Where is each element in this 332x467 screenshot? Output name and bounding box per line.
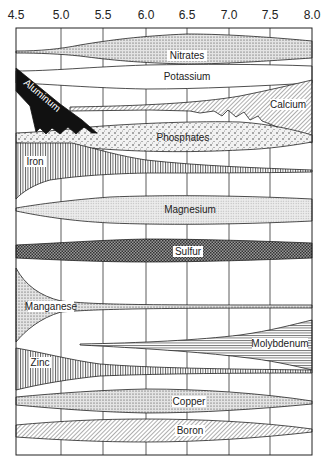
label-copper: Copper [173,396,206,407]
band-boron [16,419,312,442]
label-phosphates: Phosphates [157,132,210,143]
label-nitrates: Nitrates [170,50,204,61]
label-potassium: Potassium [164,71,211,82]
label-zinc: Zinc [31,357,50,368]
tick-8-0: 8.0 [304,8,321,22]
label-calcium: Calcium [270,99,306,110]
tick-4-5: 4.5 [8,8,25,22]
tick-7-0: 7.0 [221,8,238,22]
label-molybdenum: Molybdenum [251,338,308,349]
tick-5-5: 5.5 [95,8,112,22]
label-iron: Iron [26,156,43,167]
tick-7-5: 7.5 [262,8,279,22]
tick-5-0: 5.0 [53,8,70,22]
tick-6-0: 6.0 [138,8,155,22]
x-axis-ticks: 4.5 5.0 5.5 6.0 6.5 7.0 7.5 8.0 [8,8,321,22]
tick-6-5: 6.5 [179,8,196,22]
band-nitrates [16,34,312,64]
band-copper [16,389,312,413]
nutrient-availability-chart: 4.5 5.0 5.5 6.0 6.5 7.0 7.5 8.0 [0,0,332,467]
label-sulfur: Sulfur [175,246,202,257]
label-magnesium: Magnesium [164,204,216,215]
label-manganese: Manganese [25,301,78,312]
label-boron: Boron [177,425,204,436]
band-sulfur [16,239,312,262]
